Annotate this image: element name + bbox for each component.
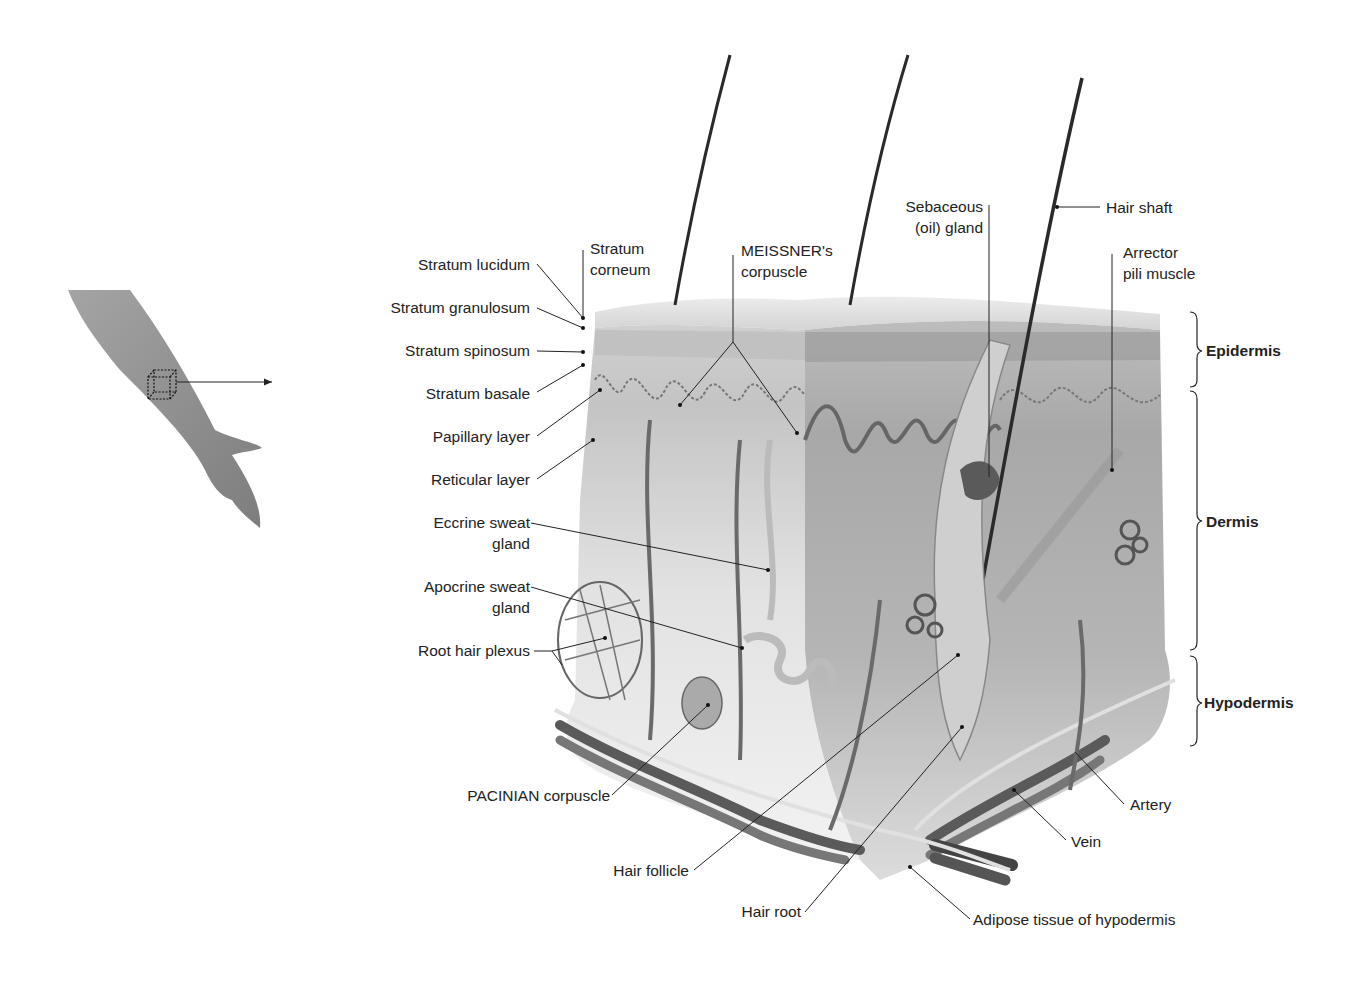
label-reticular-layer: Reticular layer: [431, 469, 530, 490]
skin-diagram: [0, 0, 1362, 996]
label-sebaceous-gland-line2: (oil) gland: [915, 217, 983, 238]
region-braces: [1190, 312, 1202, 746]
label-epidermis: Epidermis: [1206, 340, 1281, 361]
label-stratum-basale: Stratum basale: [426, 383, 530, 404]
label-eccrine-sweat-gland-line1: Eccrine sweat: [434, 512, 530, 533]
label-stratum-lucidum: Stratum lucidum: [418, 254, 530, 275]
label-dermis: Dermis: [1206, 511, 1259, 532]
forearm-inset: [68, 290, 272, 528]
label-meissner-corpuscle-line1: MEISSNER's: [741, 240, 833, 261]
brace-hypodermis: [1190, 656, 1202, 746]
label-apocrine-sweat-gland-line1: Apocrine sweat: [424, 576, 530, 597]
label-root-hair-plexus: Root hair plexus: [418, 640, 530, 661]
label-stratum-granulosum: Stratum granulosum: [390, 297, 530, 318]
label-vein: Vein: [1071, 831, 1101, 852]
label-pacinian-corpuscle: PACINIAN corpuscle: [467, 785, 610, 806]
brace-epidermis: [1190, 312, 1202, 387]
label-arrector-pili-line2: pili muscle: [1123, 263, 1195, 284]
label-stratum-corneum-line1: Stratum: [590, 238, 644, 259]
label-stratum-spinosum: Stratum spinosum: [405, 340, 530, 361]
label-stratum-corneum-line2: corneum: [590, 259, 650, 280]
label-hair-root: Hair root: [742, 901, 801, 922]
label-sebaceous-gland-line1: Sebaceous: [905, 196, 983, 217]
label-hair-follicle: Hair follicle: [613, 860, 689, 881]
skin-block: [555, 55, 1175, 880]
label-eccrine-sweat-gland-line2: gland: [492, 533, 530, 554]
label-meissner-corpuscle-line2: corpuscle: [741, 261, 807, 282]
label-hair-shaft: Hair shaft: [1106, 197, 1172, 218]
label-hypodermis: Hypodermis: [1204, 692, 1294, 713]
label-apocrine-sweat-gland-line2: gland: [492, 597, 530, 618]
label-artery: Artery: [1130, 794, 1171, 815]
label-adipose-tissue: Adipose tissue of hypodermis: [973, 909, 1175, 930]
brace-dermis: [1190, 391, 1202, 650]
label-papillary-layer: Papillary layer: [433, 426, 530, 447]
label-arrector-pili-line1: Arrector: [1123, 242, 1178, 263]
